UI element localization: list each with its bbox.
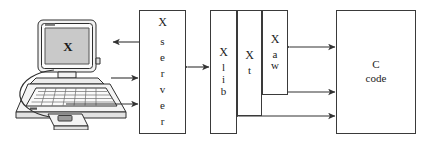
xaw-lead-letter: X [271, 33, 280, 46]
workstation-illustration [14, 8, 140, 130]
c-code-line-2: code [366, 72, 387, 86]
xt-lead-letter: X [245, 49, 254, 62]
x-server-letter-2: r [161, 66, 165, 82]
x-server-letter-0: s [160, 34, 164, 50]
box-xaw[interactable]: X a w [262, 10, 288, 95]
xlib-letter-2: b [221, 86, 227, 98]
architecture-diagram: X s e r v e r X l i b X t X a w [0, 0, 425, 144]
c-code-label: C code [366, 58, 387, 86]
xt-label: X t [245, 49, 254, 77]
x-server-lead-letter: X [158, 14, 167, 31]
c-code-line-1: C [366, 58, 387, 72]
x-server-letter-3: v [160, 82, 166, 98]
box-xlib[interactable]: X l i b [210, 10, 237, 134]
xlib-label: X l i b [219, 46, 228, 98]
xaw-letter-1: w [271, 60, 279, 72]
keyboard-icon [16, 84, 126, 118]
box-x-server[interactable]: X s e r v e r [139, 10, 186, 134]
xt-letter-0: t [248, 65, 251, 77]
x-server-letter-1: e [160, 50, 165, 66]
monitor-screen-label: X [55, 38, 81, 56]
x-server-letter-4: e [160, 98, 165, 114]
x-server-letter-5: r [161, 114, 165, 130]
xlib-lead-letter: X [219, 46, 228, 59]
box-c-code[interactable]: C code [336, 10, 416, 134]
mouse-icon [48, 114, 88, 130]
xaw-label: X a w [271, 33, 280, 73]
x-server-label: X s e r v e r [158, 14, 167, 130]
box-xt[interactable]: X t [237, 10, 262, 116]
